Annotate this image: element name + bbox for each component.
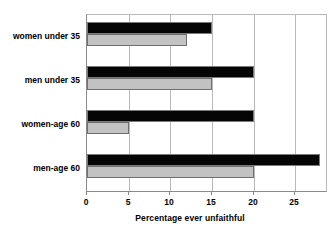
category-axis-labels: women under 35men under 35women-age 60me… <box>0 14 84 190</box>
x-axis-tickmarks <box>86 191 325 196</box>
x-tick-20 <box>253 191 254 195</box>
bar-group <box>87 103 326 147</box>
x-tick-label-25: 25 <box>274 197 314 208</box>
x-axis-title-text: Percentage ever unfaithful <box>135 213 244 223</box>
bar-group <box>87 147 326 191</box>
bar-black-2 <box>87 110 254 122</box>
x-tick-label-0: 0 <box>66 197 106 208</box>
bar-black-1 <box>87 66 254 78</box>
x-tick-label-10: 10 <box>149 197 189 208</box>
x-axis-tick-labels: 0510152025 <box>86 197 325 209</box>
bar-black-0 <box>87 22 212 34</box>
plot-area <box>86 14 327 192</box>
bar-gray-3 <box>87 166 254 178</box>
bar-gray-2 <box>87 122 129 134</box>
bar-group <box>87 15 326 59</box>
bar-group <box>87 59 326 103</box>
category-label-3: men-age 60 <box>0 163 80 173</box>
category-label-2: women-age 60 <box>0 119 80 129</box>
x-tick-5 <box>128 191 129 195</box>
bar-chart: women under 35men under 35women-age 60me… <box>0 0 336 237</box>
category-label-1: men under 35 <box>0 75 80 85</box>
bar-gray-0 <box>87 34 187 46</box>
x-tick-label-5: 5 <box>108 197 148 208</box>
x-tick-0 <box>86 191 87 195</box>
x-tick-10 <box>169 191 170 195</box>
bar-gray-1 <box>87 78 212 90</box>
x-tick-label-15: 15 <box>191 197 231 208</box>
x-tick-25 <box>294 191 295 195</box>
x-axis-title: Percentage ever unfaithful <box>0 213 336 223</box>
bar-black-3 <box>87 154 320 166</box>
category-label-0: women under 35 <box>0 31 80 41</box>
x-tick-15 <box>211 191 212 195</box>
x-tick-label-20: 20 <box>233 197 273 208</box>
